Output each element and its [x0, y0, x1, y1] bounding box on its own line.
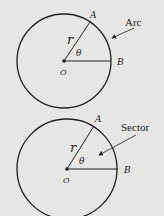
- arc-label: Arc: [125, 16, 142, 28]
- angle-label: θ: [76, 48, 82, 58]
- arc-figure: Arc A B O r θ: [17, 10, 142, 108]
- radius-label: r: [67, 32, 74, 47]
- arc-pointer-arrow: [112, 28, 134, 38]
- center-dot: [65, 167, 69, 171]
- angle-label: θ: [79, 156, 85, 166]
- center-dot: [62, 59, 66, 63]
- point-B-label: B: [123, 165, 131, 175]
- point-O-label: O: [60, 68, 67, 77]
- radius-label: r: [70, 140, 77, 155]
- point-A-label: A: [89, 10, 97, 20]
- sector-figure: Sector A B O r θ: [17, 114, 149, 216]
- sector-pointer-arrow: [99, 135, 136, 155]
- sector-label: Sector: [121, 121, 149, 133]
- point-B-label: B: [116, 57, 124, 67]
- diagram-canvas: Arc A B O r θ Sector A B O r θ: [0, 0, 164, 216]
- point-O-label: O: [63, 176, 70, 185]
- point-A-label: A: [94, 114, 102, 124]
